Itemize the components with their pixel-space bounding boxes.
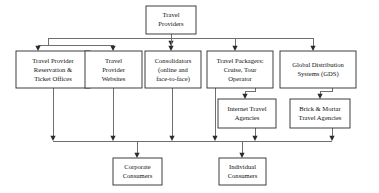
flowchart-canvas: Travel Providers Travel Provider Reserva… [0, 0, 379, 193]
node-brick-mortar-travel-agencies[interactable]: Brick & Mortar Travel Agencies [290, 99, 350, 128]
node-label-individual-consumers-line2: Consumers [228, 172, 258, 179]
node-label-individual-consumers-line1: Individual [229, 163, 256, 170]
arrowhead-corporate-consumers [134, 153, 139, 158]
arrowhead-internet-agencies [242, 94, 247, 99]
arrowhead-individual-consumers [239, 153, 244, 158]
arrowhead-internet-agencies-down [252, 136, 257, 141]
node-layer: Travel Providers Travel Provider Reserva… [16, 6, 356, 185]
node-label-consolidators-line1: Consolidators [155, 57, 192, 64]
node-label-corporate-consumers-line2: Consumers [123, 172, 153, 179]
node-label-provider-websites-line3: Websites [102, 75, 126, 82]
node-label-travel-providers-line1: Travel [163, 11, 180, 18]
arrowhead-packagers-down [212, 136, 217, 141]
node-travel-providers[interactable]: Travel Providers [146, 6, 196, 34]
arrowhead-reservation-offices-down [50, 136, 55, 141]
node-label-travel-packagers-line3: Operator [228, 75, 252, 82]
node-label-internet-agencies-line1: Internet Travel [227, 105, 266, 112]
node-label-travel-packagers-line2: Cruise, Tour [224, 66, 258, 73]
edge-top-bus-left-drop [48, 38, 113, 45]
arrowhead-provider-websites-down [110, 136, 115, 141]
node-label-reservation-offices-line1: Travel Provider [32, 57, 74, 64]
node-individual-consumers[interactable]: Individual Consumers [219, 158, 266, 185]
node-label-internet-agencies-line2: Agencies [235, 114, 260, 121]
arrowhead-travel-packagers [232, 46, 237, 51]
arrowhead-reservation-offices [35, 46, 40, 51]
arrowhead-consolidators [168, 46, 173, 51]
node-label-provider-websites-line1: Travel [105, 57, 122, 64]
edge-packagers-to-internet-agencies [245, 88, 255, 94]
node-label-gds-line1: Global Distribution [292, 61, 344, 68]
node-label-reservation-offices-line3: Ticket Offices [34, 75, 72, 82]
node-label-consolidators-line2: (online and [158, 66, 189, 74]
arrowhead-brick-mortar-down [329, 136, 334, 141]
node-global-distribution-systems[interactable]: Global Distribution Systems (GDS) [280, 51, 356, 88]
node-consolidators[interactable]: Consolidators (online and face-to-face) [145, 51, 201, 88]
node-internet-travel-agencies[interactable]: Internet Travel Agencies [218, 99, 276, 128]
node-label-reservation-offices-line2: Reservation & [34, 66, 73, 73]
node-label-brick-mortar-line1: Brick & Mortar [299, 105, 341, 112]
node-label-travel-providers-line2: Providers [158, 20, 184, 27]
node-label-travel-packagers-line1: Travel Packagers: [216, 57, 263, 64]
arrowhead-gds [310, 46, 315, 51]
node-label-provider-websites-line2: Provider [102, 66, 126, 73]
node-corporate-consumers[interactable]: Corporate Consumers [113, 158, 162, 185]
node-label-brick-mortar-line2: Travel Agencies [299, 114, 342, 121]
travel-distribution-diagram: Travel Providers Travel Provider Reserva… [0, 0, 379, 193]
node-travel-packagers[interactable]: Travel Packagers: Cruise, Tour Operator [207, 51, 273, 88]
arrowhead-consolidators-down [169, 136, 174, 141]
node-provider-reservation-offices[interactable]: Travel Provider Reservation & Ticket Off… [16, 51, 90, 88]
node-label-gds-line2: Systems (GDS) [297, 70, 338, 78]
edge-gds-to-brick-mortar [320, 88, 332, 94]
node-label-consolidators-line3: face-to-face) [156, 75, 190, 83]
arrowhead-brick-mortar [317, 94, 322, 99]
node-provider-websites[interactable]: Travel Provider Websites [85, 51, 142, 88]
arrowhead-provider-websites [110, 46, 115, 51]
node-label-corporate-consumers-line1: Corporate [124, 163, 150, 170]
